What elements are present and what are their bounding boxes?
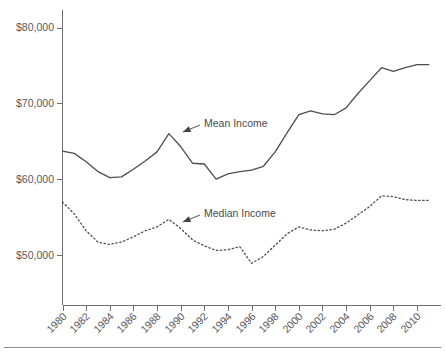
x-axis-tick-label: 1986 xyxy=(114,310,139,335)
x-axis-tick-label: 1994 xyxy=(209,310,234,335)
x-axis-tick-label: 1988 xyxy=(138,310,163,335)
x-axis-tick-label: 2008 xyxy=(374,310,399,335)
x-axis-tick-label: 1982 xyxy=(67,310,92,335)
annotation-group: Mean IncomeMedian Income xyxy=(183,117,276,222)
x-axis-tick-labels: 1980198219841986198819901992199419961998… xyxy=(44,310,423,335)
x-axis-tick-label: 1998 xyxy=(256,310,281,335)
y-axis-tick-marks xyxy=(57,28,63,256)
annotation-label: Median Income xyxy=(204,207,276,219)
x-axis-tick-label: 1990 xyxy=(162,310,187,335)
chart-canvas: $80,000$70,000$60,000$50,000 19801982198… xyxy=(0,0,445,360)
x-axis-tick-label: 2004 xyxy=(327,310,352,335)
x-axis-tick-label: 1980 xyxy=(44,310,69,335)
x-axis-tick-label: 2010 xyxy=(398,310,423,335)
y-axis-tick-label: $70,000 xyxy=(16,97,54,109)
x-axis-tick-label: 2002 xyxy=(303,310,328,335)
y-axis-tick-label: $80,000 xyxy=(16,21,54,33)
x-axis-tick-label: 1992 xyxy=(185,310,210,335)
x-axis-tick-label: 2000 xyxy=(280,310,305,335)
y-axis-tick-label: $60,000 xyxy=(16,173,54,185)
y-axis-tick-label: $50,000 xyxy=(16,249,54,261)
series-line-median-income xyxy=(63,196,429,263)
income-line-chart: $80,000$70,000$60,000$50,000 19801982198… xyxy=(0,0,445,360)
x-axis-tick-label: 1996 xyxy=(233,310,258,335)
x-axis-tick-label: 2006 xyxy=(351,310,376,335)
annotation-label: Mean Income xyxy=(204,117,268,129)
y-axis-tick-labels: $80,000$70,000$60,000$50,000 xyxy=(16,21,54,261)
x-axis-tick-label: 1984 xyxy=(91,310,116,335)
annotation-arrow-head xyxy=(183,126,191,132)
x-axis-tick-marks xyxy=(64,306,418,312)
annotation-arrow-head xyxy=(183,216,191,222)
